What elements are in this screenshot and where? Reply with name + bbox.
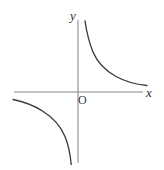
origin-label: O xyxy=(78,94,87,106)
hyperbola-branch-quadrant-1 xyxy=(85,21,147,86)
hyperbola-figure: y x O xyxy=(0,0,164,170)
x-axis-label: x xyxy=(146,86,152,99)
graph-canvas xyxy=(0,0,164,170)
hyperbola-branch-quadrant-3 xyxy=(13,100,71,165)
y-axis-label: y xyxy=(70,9,76,22)
